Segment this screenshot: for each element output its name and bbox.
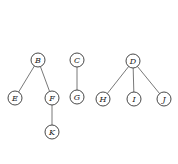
node-label: H xyxy=(99,95,108,104)
node-label: K xyxy=(48,128,56,137)
node-label: C xyxy=(74,56,80,65)
node-d: D xyxy=(126,54,140,68)
edge-b-e xyxy=(19,66,35,92)
node-label: G xyxy=(74,93,81,102)
edge-d-j xyxy=(137,66,159,93)
edge-d-h xyxy=(107,66,128,93)
node-label: E xyxy=(11,94,18,103)
node-h: H xyxy=(96,92,110,106)
node-label: B xyxy=(34,56,41,65)
node-j: J xyxy=(157,92,171,106)
node-c: C xyxy=(70,53,84,67)
node-label: F xyxy=(48,94,55,103)
tree-forest-diagram: BEFKCGDHIJ xyxy=(0,0,178,164)
node-i: I xyxy=(127,92,141,106)
node-b: B xyxy=(31,53,45,67)
edge-d-i xyxy=(133,68,134,92)
nodes-group: BEFKCGDHIJ xyxy=(8,53,171,139)
node-k: K xyxy=(45,125,59,139)
node-g: G xyxy=(70,90,84,104)
edge-b-f xyxy=(40,67,49,92)
node-label: D xyxy=(129,57,137,66)
node-f: F xyxy=(45,91,59,105)
node-e: E xyxy=(8,91,22,105)
